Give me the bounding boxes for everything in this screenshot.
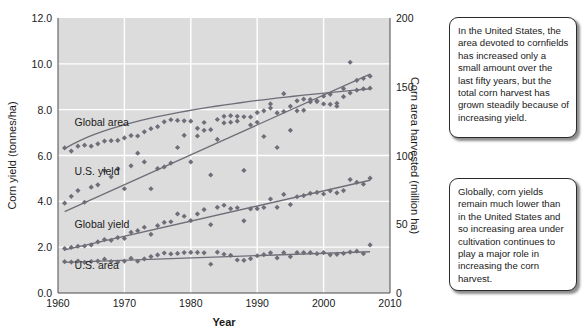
corn-yield-chart: 0.02.04.06.08.010.012.005010015020019601… (0, 0, 420, 334)
chart-plot-region: 0.02.04.06.08.010.012.005010015020019601… (0, 0, 420, 334)
x-axis-tick-label: 1960 (46, 297, 70, 309)
corn-yield-figure: 0.02.04.06.08.010.012.005010015020019601… (0, 0, 582, 334)
series-label: Global area (75, 116, 129, 128)
x-axis-tick-label: 1990 (246, 297, 270, 309)
y2-axis-tick-label: 200 (396, 12, 414, 24)
y-axis-tick-label: 12.0 (32, 12, 53, 24)
callout-global: Globally, corn yields remain much lower … (449, 178, 577, 291)
series-label: U.S. area (75, 259, 120, 271)
series-label: U.S. yield (75, 165, 120, 177)
y-axis-tick-label: 2.0 (37, 241, 52, 253)
y-axis-tick-label: 10.0 (32, 58, 53, 70)
callout-united-states-text: In the United States, the area devoted t… (458, 25, 569, 124)
x-axis-tick-label: 1970 (113, 297, 137, 309)
series-label: Global yield (75, 218, 130, 230)
y-axis-tick-label: 4.0 (37, 195, 52, 207)
y-axis-title: Corn yield (tonnes/ha) (6, 101, 18, 209)
y2-axis-title: Corn area harvested (million ha) (409, 77, 420, 234)
x-axis-title: Year (212, 316, 236, 328)
x-axis-tick-label: 2000 (312, 297, 336, 309)
y-axis-tick-label: 6.0 (37, 150, 52, 162)
y2-axis-tick-label: 50 (396, 218, 408, 230)
y-axis-tick-label: 8.0 (37, 104, 52, 116)
callout-global-text: Globally, corn yields remain much lower … (458, 186, 569, 285)
callout-panel: In the United States, the area devoted t… (446, 0, 582, 334)
x-axis-tick-label: 2010 (378, 297, 402, 309)
x-axis-tick-label: 1980 (179, 297, 203, 309)
callout-united-states: In the United States, the area devoted t… (449, 17, 577, 138)
